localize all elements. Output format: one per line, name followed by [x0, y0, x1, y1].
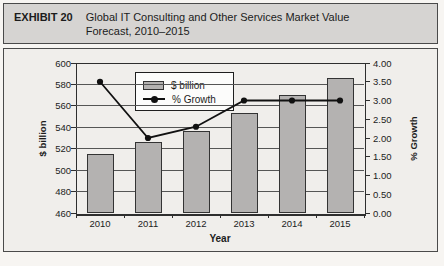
right-axis-tick-label: 4.00 — [373, 58, 403, 69]
legend-bar-swatch-icon — [143, 81, 164, 90]
left-axis-tick — [71, 63, 76, 64]
right-axis-tick-label: 3.00 — [373, 95, 403, 106]
x-axis-tick — [220, 214, 221, 218]
x-tick-label: 2013 — [220, 218, 268, 229]
left-axis-tick-label: 500 — [36, 165, 71, 176]
x-axis-tick — [364, 214, 365, 218]
left-axis-tick — [71, 170, 76, 171]
right-axis-tick — [365, 213, 370, 214]
right-axis-tick — [365, 81, 370, 82]
left-axis-tick-label: 460 — [36, 208, 71, 219]
left-axis-tick-label: 560 — [36, 100, 71, 111]
left-axis-tick — [71, 148, 76, 149]
left-axis-tick-label: 520 — [36, 143, 71, 154]
bar — [183, 131, 210, 214]
left-axis-tick — [71, 84, 76, 85]
right-axis-tick — [365, 194, 370, 195]
left-axis-tick-label: 580 — [36, 79, 71, 90]
left-axis-tick — [71, 127, 76, 128]
exhibit-number: EXHIBIT 20 — [14, 10, 73, 23]
right-axis-tick-label: 2.00 — [373, 133, 403, 144]
exhibit-title: Global IT Consulting and Other Services … — [86, 10, 396, 38]
bar — [87, 154, 114, 213]
gridline — [76, 170, 364, 171]
left-axis-tick — [71, 105, 76, 106]
right-axis-tick — [365, 138, 370, 139]
gridline — [76, 105, 364, 106]
right-axis-tick — [365, 119, 370, 120]
gridline — [76, 148, 364, 149]
bar — [135, 142, 162, 213]
right-axis-tick-label: 0.00 — [373, 208, 403, 219]
right-axis-tick-label: 1.50 — [373, 151, 403, 162]
right-axis-tick — [365, 100, 370, 101]
exhibit-header: EXHIBIT 20 Global IT Consulting and Othe… — [3, 3, 438, 44]
legend-label: % Growth — [172, 94, 216, 105]
x-axis-title: Year — [76, 233, 364, 244]
right-axis-tick — [365, 63, 370, 64]
right-axis-tick — [365, 175, 370, 176]
gridline — [76, 84, 364, 85]
legend-label: $ billion — [171, 80, 205, 91]
chart-panel: $ billion % Growth Year $ billion % Grow… — [3, 48, 438, 252]
x-tick-label: 2014 — [268, 218, 316, 229]
x-tick-label: 2010 — [76, 218, 124, 229]
left-axis-tick — [71, 191, 76, 192]
x-axis-tick — [172, 214, 173, 218]
right-axis-tick-label: 0.50 — [373, 189, 403, 200]
x-tick-label: 2015 — [316, 218, 364, 229]
gridline — [76, 127, 364, 128]
left-axis-tick-label: 480 — [36, 186, 71, 197]
legend-item-billion: $ billion — [143, 78, 226, 92]
right-axis-tick-label: 3.50 — [373, 76, 403, 87]
right-axis-tick — [365, 156, 370, 157]
left-axis-tick-label: 600 — [36, 58, 71, 69]
x-axis-tick — [124, 214, 125, 218]
x-tick-label: 2011 — [124, 218, 172, 229]
x-axis-tick — [316, 214, 317, 218]
left-axis-title: $ billion — [37, 107, 50, 171]
gridline — [76, 191, 364, 192]
left-axis-tick-label: 540 — [36, 122, 71, 133]
x-axis-tick — [76, 214, 77, 218]
right-axis-title: % Growth — [408, 107, 421, 171]
legend-item-growth: % Growth — [143, 92, 226, 106]
bar — [231, 113, 258, 213]
x-axis-tick — [268, 214, 269, 218]
legend-line-marker-icon — [143, 95, 165, 104]
bar — [279, 95, 306, 213]
bar — [327, 78, 354, 213]
x-tick-label: 2012 — [172, 218, 220, 229]
right-axis-tick-label: 2.50 — [373, 114, 403, 125]
right-axis-tick-label: 1.00 — [373, 170, 403, 181]
